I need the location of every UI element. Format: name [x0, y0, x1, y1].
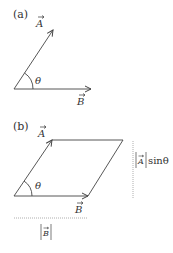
vector-a-arrow	[14, 140, 52, 196]
panel-b-label: (b)	[13, 120, 29, 133]
vector-cross-product-diagram: (a) θ A B (b) θ A B	[0, 0, 173, 253]
angle-theta-label: θ	[35, 180, 41, 191]
vector-b-label: B	[76, 94, 85, 108]
svg-text:sinθ: sinθ	[148, 155, 169, 166]
angle-theta-label: θ	[35, 75, 41, 86]
panel-a-label: (a)	[13, 8, 28, 21]
svg-text:A: A	[35, 18, 43, 29]
angle-arc	[24, 181, 32, 196]
svg-text:A: A	[37, 128, 45, 139]
panel-b: (b) θ A B A sinθ B	[13, 120, 169, 240]
vector-a-arrow	[14, 30, 53, 89]
vector-a-label: A	[35, 16, 44, 30]
svg-text:A: A	[137, 157, 144, 166]
base-label: B	[41, 224, 51, 240]
angle-arc	[25, 73, 34, 89]
vector-a-label: A	[37, 126, 46, 140]
svg-text:B: B	[76, 96, 84, 107]
parallelogram-right-edge	[88, 140, 123, 196]
panel-a: (a) θ A B	[13, 8, 91, 107]
vector-b-label: B	[74, 202, 83, 216]
svg-text:B: B	[74, 204, 82, 215]
height-label: A sinθ	[136, 152, 169, 168]
svg-text:B: B	[42, 229, 49, 238]
